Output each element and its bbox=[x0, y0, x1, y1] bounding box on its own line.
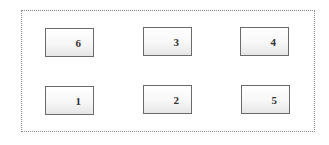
box-label: 5 bbox=[272, 94, 278, 106]
box-label: 1 bbox=[76, 95, 82, 107]
box-5: 5 bbox=[241, 85, 290, 114]
box-2: 2 bbox=[143, 85, 192, 114]
box-6: 6 bbox=[45, 28, 94, 57]
box-1: 1 bbox=[45, 86, 94, 115]
box-label: 3 bbox=[174, 36, 180, 48]
box-4: 4 bbox=[240, 27, 289, 56]
box-3: 3 bbox=[143, 27, 192, 56]
box-label: 2 bbox=[174, 94, 180, 106]
box-label: 4 bbox=[271, 36, 277, 48]
box-label: 6 bbox=[76, 37, 82, 49]
